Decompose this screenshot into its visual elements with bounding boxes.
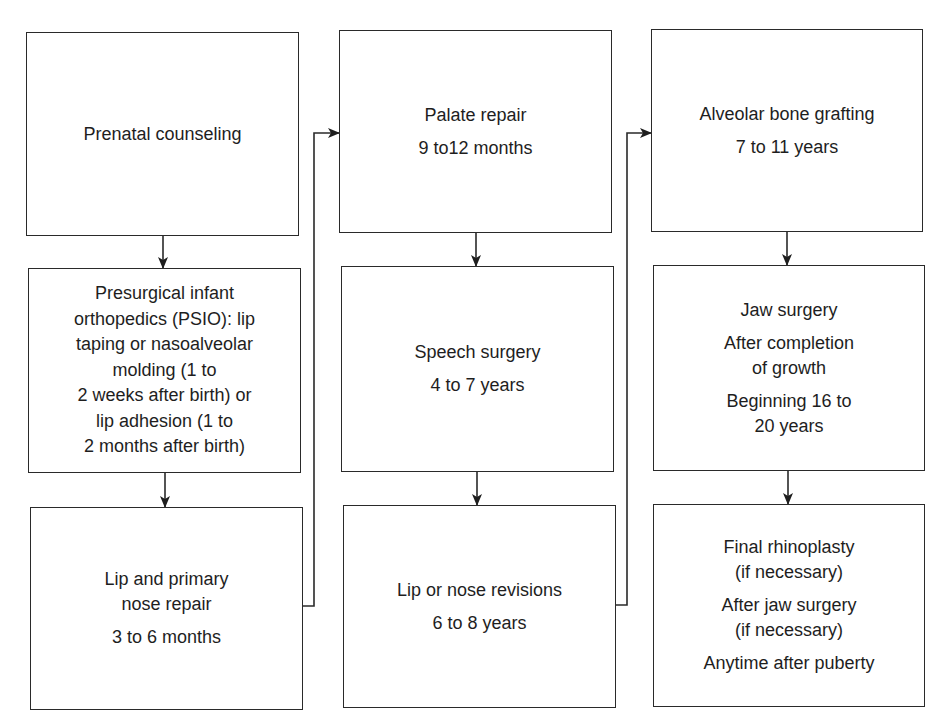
box-jaw-surgery: Jaw surgery After completion of growth B… (653, 265, 925, 471)
box-text: Jaw surgery (740, 298, 837, 323)
box-text: Palate repair (424, 103, 526, 128)
box-prenatal-counseling: Prenatal counseling (26, 32, 299, 236)
box-text: Speech surgery (414, 340, 540, 365)
box-timing: Anytime after puberty (703, 651, 874, 676)
box-timing: 9 to12 months (418, 136, 532, 161)
box-condition: After jaw surgery (if necessary) (721, 593, 856, 643)
box-text: Prenatal counseling (83, 122, 241, 147)
box-timing: 7 to 11 years (736, 135, 839, 160)
box-text: Alveolar bone grafting (699, 102, 874, 127)
box-timing: 3 to 6 months (112, 625, 221, 650)
box-text: Final rhinoplasty (if necessary) (723, 535, 854, 585)
box-timing: 4 to 7 years (430, 373, 524, 398)
box-alveolar-bone-grafting: Alveolar bone grafting 7 to 11 years (651, 29, 923, 232)
box-palate-repair: Palate repair 9 to12 months (339, 30, 612, 233)
box-condition: After completion of growth (724, 331, 854, 381)
box-timing: 6 to 8 years (432, 611, 526, 636)
connector-col1-to-col2 (302, 133, 339, 606)
box-lip-nose-revisions: Lip or nose revisions 6 to 8 years (343, 505, 616, 708)
box-presurgical-infant-orthopedics: Presurgical infant orthopedics (PSIO): l… (28, 268, 301, 473)
box-timing: Beginning 16 to 20 years (726, 389, 851, 439)
box-text: Lip and primary nose repair (104, 567, 228, 617)
box-text: Lip or nose revisions (397, 578, 562, 603)
box-lip-primary-nose-repair: Lip and primary nose repair 3 to 6 month… (30, 507, 303, 710)
box-text: Presurgical infant orthopedics (PSIO): l… (74, 281, 255, 460)
box-final-rhinoplasty: Final rhinoplasty (if necessary) After j… (653, 504, 925, 707)
connector-col2-to-col3 (615, 133, 651, 605)
box-speech-surgery: Speech surgery 4 to 7 years (341, 266, 614, 472)
